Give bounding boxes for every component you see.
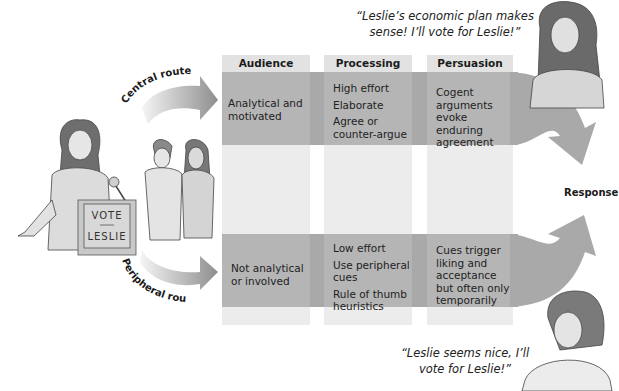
peripheral-processing-item: Use peripheral cues: [333, 259, 413, 284]
peripheral-listener-quote: “Leslie seems nice, I’ll vote for Leslie…: [400, 345, 530, 377]
central-processing-item: High effort: [333, 82, 413, 95]
quote-line: vote for Leslie!”: [400, 361, 530, 377]
peripheral-processing-cell: Low effort Use peripheral cues Rule of t…: [333, 242, 413, 317]
quote-line: “Leslie’s economic plan makes: [350, 8, 540, 24]
central-persuasion-cell: Cogent arguments evoke enduring agreemen…: [436, 86, 516, 149]
peripheral-listener-illustration: [522, 291, 612, 391]
central-listener-illustration: [530, 2, 604, 108]
column-header-processing: Processing: [324, 55, 412, 72]
audience-illustration: [145, 140, 214, 241]
central-processing-item: Agree or counter-argue: [333, 115, 413, 140]
response-label: Response: [564, 187, 618, 198]
peripheral-processing-item: Rule of thumb heuristics: [333, 288, 413, 313]
column-header-persuasion: Persuasion: [427, 55, 513, 72]
podium-sign-vote: VOTE: [92, 210, 123, 221]
central-route-arrow: [142, 76, 218, 124]
central-processing-item: Elaborate: [333, 99, 413, 112]
central-processing-cell: High effort Elaborate Agree or counter-a…: [333, 82, 413, 144]
peripheral-audience-cell: Not analytical or involved: [231, 262, 311, 287]
column-header-audience: Audience: [222, 55, 310, 72]
central-listener-quote: “Leslie’s economic plan makes sense! I’l…: [350, 8, 540, 40]
quote-line: “Leslie seems nice, I’ll: [400, 345, 530, 361]
peripheral-processing-item: Low effort: [333, 242, 413, 255]
quote-line: sense! I’ll vote for Leslie!”: [350, 24, 540, 40]
podium-sign-leslie: LESLIE: [87, 231, 126, 242]
central-audience-cell: Analytical and motivated: [228, 97, 310, 122]
peripheral-persuasion-cell: Cues trigger liking and acceptance but o…: [436, 244, 516, 307]
